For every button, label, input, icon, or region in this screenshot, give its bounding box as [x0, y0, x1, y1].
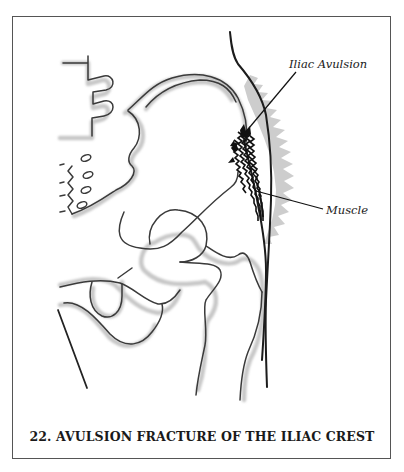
bone-outlines: [58, 56, 262, 400]
label-muscle: Muscle: [326, 203, 368, 217]
bone-shadows: [60, 63, 263, 400]
figure-caption: 22. AVULSION FRACTURE OF THE ILIAC CREST: [12, 429, 392, 444]
label-iliac-avulsion: Iliac Avulsion: [289, 57, 367, 71]
